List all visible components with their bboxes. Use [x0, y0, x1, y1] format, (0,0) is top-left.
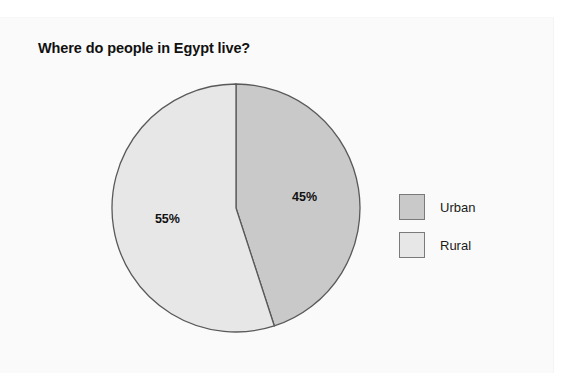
pie-chart: 45% 55%: [110, 82, 362, 334]
pie-chart-svg: 45% 55%: [110, 82, 362, 334]
legend-label-rural: Rural: [440, 238, 471, 253]
pie-label-rural: 55%: [155, 212, 180, 226]
chart-screenshot: Where do people in Egypt live? 45% 55% U…: [0, 0, 574, 373]
chart-title: Where do people in Egypt live?: [38, 40, 250, 56]
legend-swatch-rural: [399, 232, 425, 258]
legend-swatch-urban: [399, 194, 425, 220]
chart-legend: Urban Rural: [399, 188, 539, 264]
pie-label-urban: 45%: [292, 190, 317, 204]
legend-item-urban[interactable]: Urban: [399, 188, 539, 226]
legend-item-rural[interactable]: Rural: [399, 226, 539, 264]
legend-label-urban: Urban: [440, 200, 475, 215]
